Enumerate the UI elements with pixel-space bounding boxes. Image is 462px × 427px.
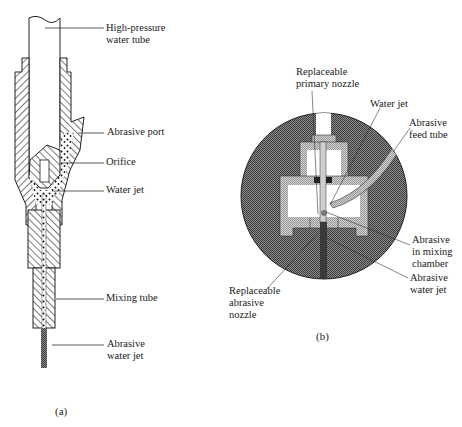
label-line: primary nozzle: [296, 78, 359, 90]
label-orifice: Orifice: [106, 156, 136, 168]
label-mixing-chamber: Abrasive in mixing chamber: [412, 234, 453, 270]
label-line: nozzle: [229, 309, 280, 321]
label-abrasive-nozzle: Replaceable abrasive nozzle: [229, 285, 280, 321]
label-line: High-pressure: [106, 22, 165, 34]
label-line: Replaceable: [229, 285, 280, 297]
label-line: Abrasive: [409, 117, 448, 129]
label-primary-nozzle: Replaceable primary nozzle: [296, 66, 359, 90]
label-abrasive-water-jet-a: Abrasive water jet: [107, 338, 145, 362]
label-line: Replaceable: [296, 66, 359, 78]
figure-a-nozzle: [15, 16, 104, 368]
label-line: Abrasive: [107, 338, 145, 350]
label-abrasive-port: Abrasive port: [107, 126, 164, 138]
label-water-jet-b: Water jet: [370, 98, 408, 110]
label-line: Abrasive: [410, 272, 448, 284]
nozzle-diagram: [0, 0, 462, 427]
label-line: Abrasive: [412, 234, 453, 246]
label-line: chamber: [412, 258, 453, 270]
caption-a: (a): [55, 405, 67, 417]
label-line: feed tube: [409, 129, 448, 141]
label-line: in mixing: [412, 246, 453, 258]
label-line: abrasive: [229, 297, 280, 309]
label-mixing-tube: Mixing tube: [106, 292, 158, 304]
label-feed-tube: Abrasive feed tube: [409, 117, 448, 141]
label-water-jet-a: Water jet: [106, 184, 144, 196]
label-high-pressure-tube: High-pressure water tube: [106, 22, 165, 46]
figure-b-cross-section: [241, 91, 410, 292]
label-line: water jet: [107, 350, 145, 362]
label-abrasive-water-jet-b: Abrasive water jet: [410, 272, 448, 296]
label-line: water tube: [106, 34, 165, 46]
label-line: water jet: [410, 284, 448, 296]
caption-b: (b): [316, 330, 329, 342]
